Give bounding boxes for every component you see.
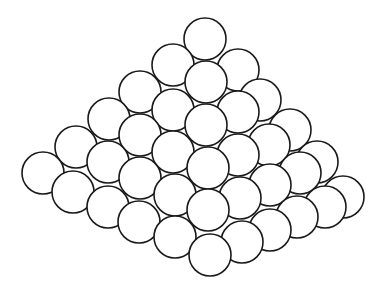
sphere <box>189 234 231 276</box>
sphere-pyramid-diagram <box>0 0 383 292</box>
sphere <box>185 61 227 103</box>
sphere <box>185 104 227 146</box>
sphere-stack-canvas <box>0 0 383 292</box>
sphere <box>187 189 229 231</box>
sphere <box>187 147 229 189</box>
